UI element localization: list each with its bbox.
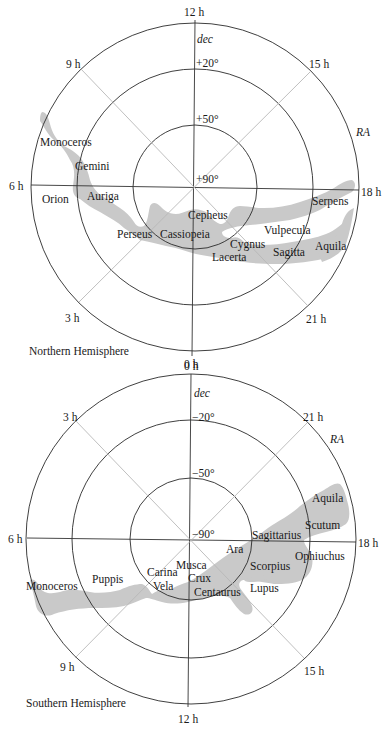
constellation-cepheus: Cepheus: [188, 209, 228, 222]
constellation-musca: Musca: [176, 559, 207, 571]
constellation-vulpecula: Vulpecula: [264, 224, 311, 237]
constellation-perseus: Perseus: [117, 228, 153, 240]
dec-label-minus50: −50°: [192, 467, 215, 479]
hour-label-6h-north: 6 h: [9, 180, 24, 192]
dec-label-minus90: −90°: [192, 528, 215, 540]
dec-label-plus50: +50°: [196, 113, 219, 125]
ra-axis-label-south: RA: [329, 433, 345, 445]
southern-hemisphere-map: 0 h 3 h 21 h 6 h 18 h 9 h 15 h 12 h dec …: [8, 358, 378, 725]
dec-label-minus20: −20°: [192, 411, 215, 423]
dec-axis-label-north: dec: [197, 33, 213, 45]
celestial-maps: 12 h 9 h 15 h 6 h 18 h 3 h 21 h 0 h dec …: [0, 0, 390, 736]
northern-hemisphere-title: Northern Hemisphere: [29, 345, 129, 358]
hour-label-9h-north: 9 h: [66, 58, 81, 70]
constellation-auriga: Auriga: [87, 190, 119, 203]
constellation-puppis: Puppis: [92, 573, 124, 586]
dec-axis-label-south: dec: [194, 387, 210, 399]
constellation-cassiopeia: Cassiopeia: [160, 228, 210, 241]
constellation-orion: Orion: [42, 193, 69, 205]
hour-label-12h-south: 12 h: [178, 713, 198, 725]
hour-label-6h-south: 6 h: [8, 533, 23, 545]
northern-hemisphere-map: 12 h 9 h 15 h 6 h 18 h 3 h 21 h 0 h dec …: [9, 6, 381, 372]
hour-label-3h-north: 3 h: [65, 312, 80, 324]
dec-label-plus90: +90°: [196, 173, 219, 185]
constellation-gemini: Gemini: [75, 160, 110, 172]
constellation-ophiuchus: Ophiuchus: [295, 550, 345, 563]
hour-label-21h-north: 21 h: [306, 313, 326, 325]
constellation-lacerta: Lacerta: [212, 251, 246, 263]
hour-label-0h-south: 0 h: [184, 358, 199, 370]
constellation-carina: Carina: [147, 566, 178, 578]
hour-label-9h-south: 9 h: [60, 661, 75, 673]
ra-axis-label-north: RA: [355, 126, 371, 138]
hour-label-12h-north: 12 h: [184, 6, 204, 18]
constellation-monoceros-south: Monoceros: [26, 580, 78, 592]
southern-hemisphere-title: Southern Hemisphere: [26, 697, 126, 710]
hour-label-15h-north: 15 h: [309, 58, 329, 70]
hour-label-15h-south: 15 h: [304, 665, 324, 677]
constellation-scutum: Scutum: [305, 519, 340, 531]
hour-label-18h-north: 18 h: [361, 186, 381, 198]
constellation-scorpius: Scorpius: [250, 560, 291, 573]
hour-label-3h-south: 3 h: [63, 411, 78, 423]
hour-label-21h-south: 21 h: [303, 411, 323, 423]
constellation-ara: Ara: [226, 543, 243, 555]
constellation-monoceros-north: Monoceros: [40, 136, 92, 148]
constellation-cygnus: Cygnus: [230, 238, 266, 251]
constellation-lupus: Lupus: [250, 582, 279, 595]
dec-label-plus20: +20°: [196, 57, 219, 69]
constellation-aquila-south: Aquila: [312, 492, 343, 505]
constellation-serpens: Serpens: [312, 195, 349, 208]
constellation-crux: Crux: [188, 572, 211, 584]
constellation-centaurus: Centaurus: [194, 586, 241, 598]
constellation-vela: Vela: [153, 580, 173, 592]
constellation-sagittarius: Sagittarius: [252, 529, 302, 542]
milky-way-band-north: [40, 112, 355, 264]
constellation-sagitta: Sagitta: [273, 246, 305, 259]
hour-label-18h-south: 18 h: [358, 537, 378, 549]
constellation-aquila-north: Aquila: [315, 240, 346, 253]
